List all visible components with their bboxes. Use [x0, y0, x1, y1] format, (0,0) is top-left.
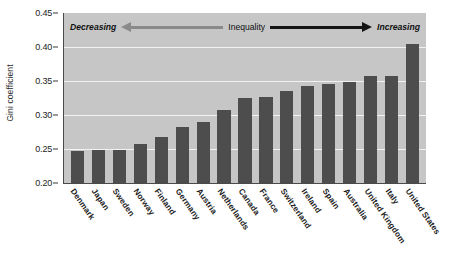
bar-france[interactable]	[259, 97, 272, 183]
y-axis-tick-label: 0.40	[35, 42, 52, 52]
bar-slot	[88, 13, 109, 183]
bar-slot	[276, 13, 297, 183]
bar-switzerland[interactable]	[280, 91, 293, 183]
y-axis-label: Gini coefficient	[2, 0, 18, 185]
bar-slot	[360, 13, 381, 183]
x-label-slot: Italy	[380, 185, 401, 259]
x-label-slot: France	[254, 185, 275, 259]
y-axis-tick-label: 0.20	[35, 178, 52, 188]
y-axis-tick-label: 0.25	[35, 144, 52, 154]
bar-series	[64, 13, 426, 183]
bar-slot	[297, 13, 318, 183]
bar-norway[interactable]	[134, 144, 147, 183]
bar-united-kingdom[interactable]	[364, 76, 377, 183]
bar-italy[interactable]	[385, 76, 398, 183]
y-axis-tick-mark	[53, 47, 58, 48]
bar-ireland[interactable]	[301, 86, 314, 183]
bar-netherlands[interactable]	[217, 110, 230, 183]
y-axis-tick-label: 0.45	[35, 8, 52, 18]
x-label-slot: Canada	[234, 185, 255, 259]
bar-slot	[402, 13, 423, 183]
bar-slot	[109, 13, 130, 183]
bar-denmark[interactable]	[71, 151, 84, 183]
x-label-slot: Australia	[338, 185, 359, 259]
plot-area: Decreasing Inequality Increasing	[63, 13, 426, 184]
x-label-slot: United States	[401, 185, 422, 259]
x-label-slot: Germany	[171, 185, 192, 259]
x-label-slot: Denmark	[66, 185, 87, 259]
bar-slot	[193, 13, 214, 183]
x-label-slot: Norway	[129, 185, 150, 259]
x-label-slot: Japan	[87, 185, 108, 259]
x-label-slot: United Kingdom	[359, 185, 380, 259]
bar-slot	[214, 13, 235, 183]
y-axis-tick-label: 0.30	[35, 110, 52, 120]
bar-spain[interactable]	[322, 84, 335, 183]
y-axis-tick-label: 0.35	[35, 76, 52, 86]
y-axis-label-text: Gini coefficient	[5, 64, 15, 121]
x-axis-category-labels: DenmarkJapanSwedenNorwayFinlandGermanyAu…	[63, 185, 425, 259]
bar-slot	[172, 13, 193, 183]
bar-australia[interactable]	[343, 82, 356, 183]
y-axis-tick-mark	[53, 149, 58, 150]
x-axis-label-united-states: United States	[404, 187, 442, 236]
bar-slot	[235, 13, 256, 183]
y-axis-tick-mark	[53, 13, 58, 14]
bar-germany[interactable]	[176, 127, 189, 183]
y-axis-tick-mark	[53, 183, 58, 184]
bar-slot	[151, 13, 172, 183]
x-label-slot: Switzerland	[275, 185, 296, 259]
bar-japan[interactable]	[92, 150, 105, 183]
bar-slot	[255, 13, 276, 183]
x-label-slot: Finland	[150, 185, 171, 259]
x-axis-label-italy: Italy	[383, 187, 400, 206]
gini-coefficient-bar-chart: Gini coefficient 0.450.400.350.300.250.2…	[0, 0, 467, 259]
bar-austria[interactable]	[197, 122, 210, 183]
bar-united-states[interactable]	[406, 44, 419, 183]
bar-slot	[67, 13, 88, 183]
bar-slot	[339, 13, 360, 183]
x-label-slot: Sweden	[108, 185, 129, 259]
y-axis-tick-labels: 0.450.400.350.300.250.20	[18, 13, 58, 183]
x-label-slot: Ireland	[296, 185, 317, 259]
y-axis-tick-mark	[53, 115, 58, 116]
bar-canada[interactable]	[238, 98, 251, 183]
x-label-slot: Austria	[192, 185, 213, 259]
bar-slot	[318, 13, 339, 183]
bar-sweden[interactable]	[113, 150, 126, 183]
bar-slot	[130, 13, 151, 183]
y-axis-tick-mark	[53, 81, 58, 82]
x-label-slot: Netherlands	[213, 185, 234, 259]
bar-slot	[381, 13, 402, 183]
bar-finland[interactable]	[155, 137, 168, 183]
x-label-slot: Spain	[317, 185, 338, 259]
